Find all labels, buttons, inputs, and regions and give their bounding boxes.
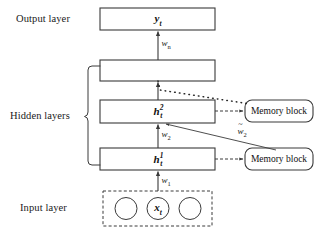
weight-w2-tilde-text: w~2	[237, 126, 246, 136]
memory-block-lower-label: Memory block	[251, 154, 307, 164]
hidden-layer-top-box	[100, 60, 215, 81]
output-layer-label-text: yt	[155, 12, 162, 24]
weight-label-wn: wn	[161, 38, 170, 50]
side-label-output-layer: Output layer	[16, 13, 70, 24]
weight-w2-text: w2	[161, 129, 170, 139]
input-node-right	[179, 198, 201, 220]
weight-label-w2-tilde: w~2	[237, 126, 246, 138]
weight-w1-text: w1	[161, 175, 170, 185]
hidden-layer-1-label-text: h1t	[154, 152, 163, 164]
weight-label-w2: w2	[161, 129, 170, 141]
hidden-layer-2-label-text: h2t	[154, 105, 163, 117]
hidden-layers-brace	[85, 66, 101, 165]
weight-label-w1: w1	[161, 175, 170, 187]
memory-block-upper-label: Memory block	[251, 106, 307, 116]
rnn-memory-block-diagram: Output layer Hidden layers Input layer y…	[0, 0, 322, 237]
input-node-center-label-text: xt	[154, 201, 162, 213]
output-layer-label: yt	[155, 12, 162, 27]
weight-wn-text: wn	[161, 38, 170, 48]
hidden-layer-1-label: h1t	[154, 151, 163, 168]
side-label-input-layer: Input layer	[20, 202, 67, 213]
side-label-hidden-layers: Hidden layers	[10, 110, 70, 121]
input-node-left	[115, 198, 137, 220]
recurrent-line-w2-tilde	[166, 124, 276, 150]
input-node-center-label: xt	[154, 201, 162, 216]
hidden-layer-2-label: h2t	[154, 103, 163, 120]
